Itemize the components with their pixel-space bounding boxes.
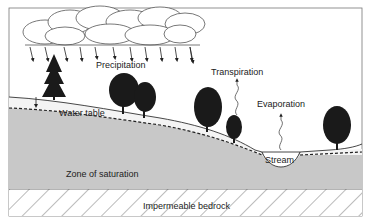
zone-of-saturation-label: Zone of saturation [66,169,139,179]
precipitation-label: Precipitation [96,60,146,70]
transpiration-label: Transpiration [211,67,263,77]
evaporation-label: Evaporation [257,99,305,109]
groundwater-diagram: Precipitation Transpiration Evaporation … [0,0,370,224]
stream-label: Stream [265,155,294,165]
diagram-canvas [0,0,370,224]
water-table-label: Water table [59,108,105,118]
bedrock-label: Impermeable bedrock [143,201,230,211]
